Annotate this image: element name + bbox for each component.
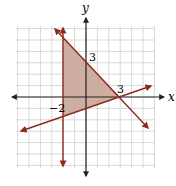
y-intercept-label: 3: [89, 51, 96, 64]
neg2-label: −2: [49, 102, 65, 115]
shaded-region: [63, 37, 120, 116]
x-intercept-label: 3: [117, 83, 124, 96]
chart-svg: y x 3 3 −2: [0, 0, 176, 186]
y-axis-label: y: [81, 1, 89, 15]
x-axis-label: x: [168, 90, 175, 104]
chart: y x 3 3 −2: [0, 0, 176, 186]
